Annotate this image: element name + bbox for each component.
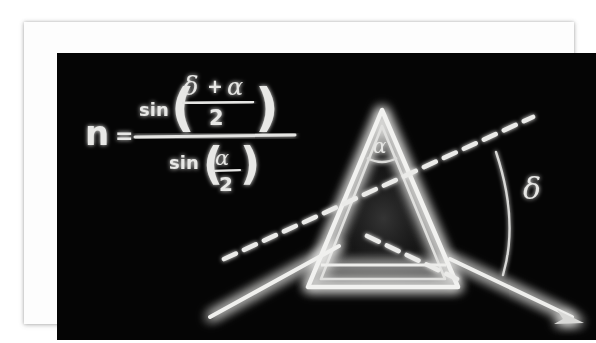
numerator-inner-denominator-two: 2: [209, 106, 224, 130]
numerator-inner-fraction-bar: [183, 102, 253, 103]
deviation-angle-marker: δ: [496, 152, 541, 275]
exit-ray: [450, 259, 572, 317]
denominator-sin-label: sin: [169, 152, 199, 173]
deviation-angle-delta-label: δ: [523, 171, 541, 206]
deviation-angle-arc: [496, 152, 510, 275]
formula-group: n = sin ( δ + α 2 ): [85, 71, 295, 196]
prism-diagram: n = sin ( δ + α 2 ): [57, 53, 596, 340]
photo-frame: n = sin ( δ + α 2 ): [24, 22, 574, 324]
formula-equals: =: [115, 123, 133, 148]
chalkboard-photo-area: n = sin ( δ + α 2 ): [57, 53, 596, 340]
numerator-delta-symbol: δ: [183, 71, 199, 101]
numerator-sin-label: sin: [139, 99, 169, 120]
formula-variable-n: n: [85, 113, 109, 153]
denominator-inner-denominator-two: 2: [219, 172, 233, 196]
numerator-alpha-symbol: α: [227, 73, 243, 101]
exit-ray-arrowhead: [554, 310, 584, 324]
numerator-close-paren: ): [255, 77, 279, 137]
denominator-alpha-symbol: α: [215, 146, 229, 170]
apex-angle-alpha-label: α: [373, 134, 387, 158]
denominator-inner-fraction-bar: [214, 170, 240, 171]
formula-denominator: sin ( α 2 ): [169, 138, 260, 196]
formula-numerator: sin ( δ + α 2 ): [139, 71, 279, 137]
numerator-plus-sign: +: [207, 75, 223, 97]
denominator-close-paren: ): [240, 138, 260, 189]
